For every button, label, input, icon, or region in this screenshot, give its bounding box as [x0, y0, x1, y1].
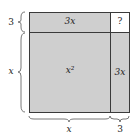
dim-bottom-left: x [63, 125, 75, 134]
brace-lines [0, 0, 137, 138]
dim-left-top: 3 [6, 18, 16, 27]
dim-bottom-right: 3 [115, 125, 125, 134]
dim-left-bottom: x [6, 67, 16, 76]
